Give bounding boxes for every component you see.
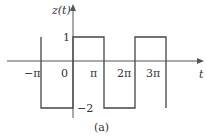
tick-label-zero: 0 [61, 67, 68, 80]
figure-caption: (a) [94, 121, 109, 134]
y-axis-arrow-icon [70, 4, 76, 11]
tick-label-pi: π [90, 67, 97, 80]
tick-label-one: 1 [63, 31, 70, 44]
square-wave-chart: z(t) t 1 −2 −π 0 π 2π 3π (a) [0, 0, 207, 139]
tick-label-3pi: 3π [146, 67, 160, 80]
x-axis-label: t [199, 68, 204, 81]
x-axis-arrow-icon [197, 58, 204, 64]
tick-label-neg-pi: −π [24, 67, 40, 80]
tick-label-neg-two: −2 [77, 102, 93, 115]
tick-label-2pi: 2π [117, 67, 131, 80]
y-axis-label: z(t) [51, 4, 71, 17]
